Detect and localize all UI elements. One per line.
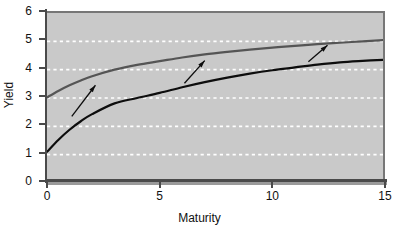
x-tick <box>46 181 48 188</box>
y-tick-label: 3 <box>18 90 32 102</box>
y-tick <box>39 10 46 12</box>
y-tick <box>39 38 46 40</box>
y-tick-label: 4 <box>18 62 32 74</box>
x-axis-title: Maturity <box>0 211 399 225</box>
y-tick-label: 2 <box>18 118 32 130</box>
y-tick-label: 0 <box>18 175 32 187</box>
x-tick <box>159 181 161 188</box>
shift-arrow-right <box>308 45 327 61</box>
series-line-upper-yield-curve <box>47 40 385 98</box>
y-tick <box>39 67 46 69</box>
x-tick <box>271 181 273 188</box>
y-tick-label: 6 <box>18 5 32 17</box>
y-tick <box>39 123 46 125</box>
x-axis-shadow <box>47 182 387 185</box>
y-tick-labels: 0123456 <box>14 0 32 235</box>
y-axis-title: Yield <box>2 72 16 118</box>
x-tick-label: 15 <box>370 190 399 202</box>
x-tick-label: 0 <box>32 190 62 202</box>
plot-area <box>47 11 385 181</box>
shift-arrow-left <box>72 85 96 116</box>
y-tick <box>39 95 46 97</box>
chart-figure: 0123456 051015 Yield Maturity <box>0 0 399 235</box>
x-tick-label: 5 <box>145 190 175 202</box>
x-tick <box>384 181 386 188</box>
y-tick <box>39 180 46 182</box>
y-tick <box>39 152 46 154</box>
chart-curves-layer <box>47 13 385 181</box>
shift-arrow-middle <box>184 61 204 84</box>
x-tick-label: 10 <box>257 190 287 202</box>
y-tick-label: 5 <box>18 33 32 45</box>
y-tick-label: 1 <box>18 147 32 159</box>
